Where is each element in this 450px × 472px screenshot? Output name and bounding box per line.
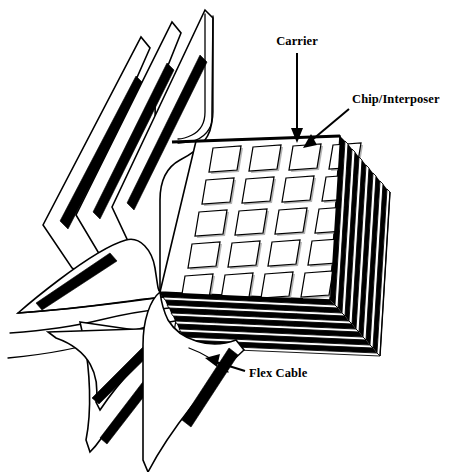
chip bbox=[275, 208, 307, 234]
chip bbox=[242, 177, 274, 203]
chip bbox=[301, 271, 333, 297]
chip bbox=[282, 176, 314, 202]
chip bbox=[289, 144, 321, 170]
chip-interposer-label: Chip/Interposer bbox=[352, 92, 440, 106]
chip bbox=[235, 209, 267, 235]
chip bbox=[188, 242, 220, 268]
chip bbox=[202, 178, 234, 204]
chip bbox=[268, 240, 300, 266]
technical-diagram: Carrier Chip/Interposer Flex Cable bbox=[0, 0, 450, 472]
chip bbox=[209, 146, 241, 172]
chip bbox=[228, 241, 260, 267]
chip bbox=[195, 210, 227, 236]
chip bbox=[261, 272, 293, 298]
flex-cable-label: Flex Cable bbox=[249, 366, 308, 380]
chip bbox=[249, 145, 281, 171]
carrier-label: Carrier bbox=[276, 34, 318, 48]
diagram-root: Carrier Chip/Interposer Flex Cable bbox=[0, 0, 450, 472]
